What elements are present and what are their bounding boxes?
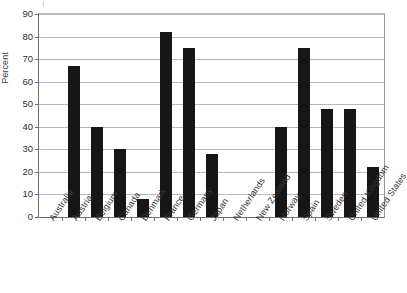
plot-area	[38, 13, 385, 218]
bar	[321, 109, 333, 217]
y-axis-tick-label: 0	[0, 211, 38, 222]
y-axis-tick-labels: 0102030405060708090	[0, 0, 38, 293]
x-axis-tick-labels: AustraliaAustriaBelgiumCanadaDenmarkFran…	[38, 217, 383, 293]
bars-layer	[39, 14, 384, 217]
y-axis-tick-label: 30	[0, 143, 38, 154]
y-axis-tick-label: 40	[0, 120, 38, 131]
y-axis-tick-label: 20	[0, 165, 38, 176]
bar-chart: Percent 0102030405060708090 AustraliaAus…	[0, 0, 407, 293]
y-axis-tick-label: 80	[0, 30, 38, 41]
bar	[298, 48, 310, 217]
y-axis-tick-label: 50	[0, 98, 38, 109]
bar	[183, 48, 195, 217]
y-axis-tick-label: 90	[0, 8, 38, 19]
y-axis-tick-label: 10	[0, 188, 38, 199]
y-axis-tick-label: 70	[0, 53, 38, 64]
y-axis-tick-label: 60	[0, 75, 38, 86]
top-tick-mark	[43, 1, 44, 7]
